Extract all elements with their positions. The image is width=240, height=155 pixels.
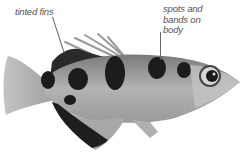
label-spots-and-bands: spots and bands on body	[163, 4, 213, 36]
leader-line-spots	[160, 32, 161, 60]
fish-illustration: tinted fins spots and bands on body	[0, 0, 240, 155]
eye	[200, 66, 220, 86]
label-tinted-fins: tinted fins	[15, 7, 53, 18]
